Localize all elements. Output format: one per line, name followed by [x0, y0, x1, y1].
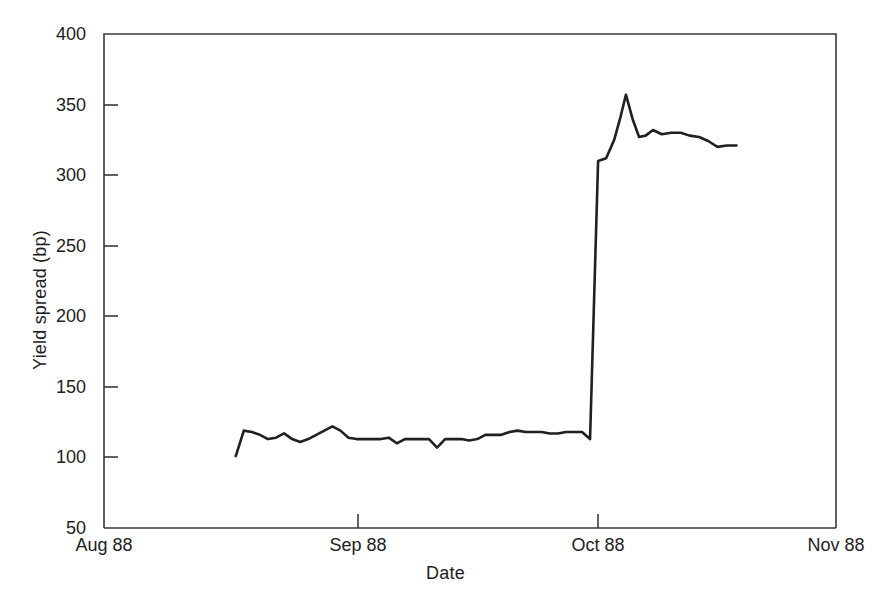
axis-corner-mask	[103, 529, 113, 535]
x-axis-ticks	[358, 514, 598, 528]
plot-frame	[104, 34, 836, 528]
chart-figure: Yield spread (bp) Date 400 350 300 250 2…	[0, 0, 891, 601]
data-series-yield-spread	[236, 95, 737, 456]
y-axis-ticks	[104, 105, 118, 457]
